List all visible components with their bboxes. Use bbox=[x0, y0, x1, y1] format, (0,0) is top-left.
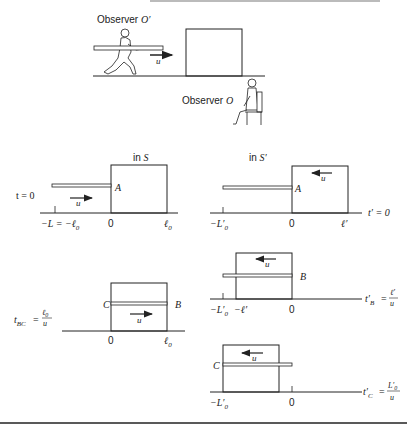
time-label-Sprime-t0: t′ = 0 bbox=[368, 207, 390, 218]
point-B-Sprime: B bbox=[300, 271, 306, 282]
tick-label-zero-S-t0: 0 bbox=[108, 218, 114, 229]
svg-text:u: u bbox=[43, 319, 47, 328]
panel-Sprime-tB: u B −L′0 −ℓ′ 0 t′B = ℓ′ u bbox=[210, 253, 398, 318]
frame-label-Sprime: in S′ bbox=[249, 152, 268, 163]
panel-S-t0: in S A t = 0 u −L = −ℓ0 0 ℓ0 bbox=[16, 152, 178, 232]
tick-label-l0-S-tBC: ℓ0 bbox=[164, 335, 172, 349]
frame-label-S: in S bbox=[133, 152, 149, 163]
svg-text:u: u bbox=[390, 393, 394, 402]
pole-barn-diagram: Observer O′ u Observer O in bbox=[0, 0, 407, 428]
barn-Sprime-tC bbox=[223, 345, 279, 392]
observer-rest-label: Observer O bbox=[182, 95, 233, 106]
point-B-S: B bbox=[175, 299, 181, 310]
time-label-S-t0: t = 0 bbox=[16, 190, 34, 201]
seated-observer-figure bbox=[233, 79, 262, 125]
tick-label-zero-S-tBC: 0 bbox=[108, 335, 114, 346]
time-label-S-tBC: tBC = ℓ0 u bbox=[14, 308, 52, 328]
time-label-Sprime-tB: t′B = ℓ′ u bbox=[365, 288, 398, 308]
point-C-S: C bbox=[103, 299, 110, 310]
svg-text:=: = bbox=[381, 293, 387, 304]
tick-label-l0-S-t0: ℓ0 bbox=[164, 218, 172, 232]
svg-text:=: = bbox=[33, 314, 39, 325]
velocity-label-Sprime-t0: u bbox=[321, 173, 326, 183]
panel-Sprime-tC: u C −L′0 0 t′C = L′0 u bbox=[210, 345, 400, 411]
time-label-Sprime-tC: t′C = L′0 u bbox=[363, 381, 400, 402]
svg-text:ℓ0: ℓ0 bbox=[42, 308, 48, 318]
pole-Sprime-tC bbox=[223, 363, 292, 366]
tick-label-minus-lprime: −ℓ′ bbox=[234, 304, 248, 315]
top-scene: Observer O′ u Observer O bbox=[93, 14, 265, 125]
tick-label-zero-Sprime-t0: 0 bbox=[289, 218, 295, 229]
svg-text:tBC: tBC bbox=[14, 314, 26, 328]
tick-label-minus-L: −L = −ℓ0 bbox=[41, 218, 80, 232]
pole-S-t0 bbox=[52, 184, 111, 187]
svg-text:ℓ′: ℓ′ bbox=[390, 288, 395, 297]
svg-text:=: = bbox=[379, 386, 385, 397]
running-observer-figure bbox=[104, 29, 143, 74]
panel-Sprime-t0: in S′ u A −L′0 0 ℓ′ t′ = 0 bbox=[210, 152, 390, 232]
panel-S-tBC: C B u 0 ℓ0 tBC = ℓ0 u bbox=[14, 283, 185, 349]
velocity-label-Sprime-tC: u bbox=[252, 353, 257, 363]
tick-label-lprime: ℓ′ bbox=[341, 218, 348, 229]
svg-text:u: u bbox=[390, 299, 394, 308]
tick-label-minus-Lprime-tC: −L′0 bbox=[210, 397, 229, 411]
tick-label-zero-Sprime-tC: 0 bbox=[289, 397, 295, 408]
velocity-label-top: u bbox=[156, 56, 161, 66]
svg-text:L′0: L′0 bbox=[387, 381, 397, 391]
svg-text:t′B: t′B bbox=[365, 293, 375, 307]
pole-S-tBC bbox=[111, 302, 167, 305]
point-A-S: A bbox=[114, 182, 122, 193]
pole-Sprime-tB bbox=[223, 274, 292, 277]
velocity-label-S-tBC: u bbox=[137, 315, 142, 325]
svg-text:t′C: t′C bbox=[363, 386, 373, 400]
tick-label-minus-Lprime-tB: −L′0 bbox=[210, 304, 229, 318]
pole-top bbox=[94, 46, 163, 50]
velocity-label-S-t0: u bbox=[76, 198, 81, 208]
observer-moving-label: Observer O′ bbox=[97, 14, 151, 25]
tick-label-zero-Sprime-tB: 0 bbox=[289, 304, 295, 315]
pole-Sprime-t0 bbox=[223, 186, 292, 189]
point-C-Sprime: C bbox=[213, 360, 220, 371]
cutoff-header-text bbox=[150, 0, 380, 2]
point-A-Sprime: A bbox=[294, 183, 302, 194]
barn-top bbox=[186, 29, 242, 76]
tick-label-minus-Lprime: −L′0 bbox=[210, 218, 229, 232]
velocity-label-Sprime-tB: u bbox=[265, 259, 270, 269]
